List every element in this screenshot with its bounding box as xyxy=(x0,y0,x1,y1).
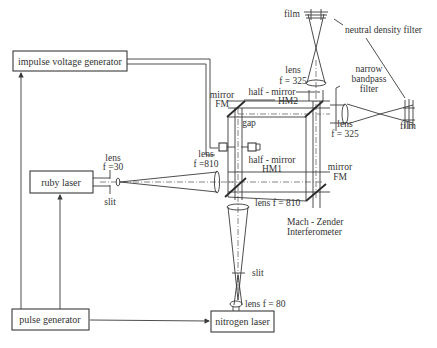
lens-f80-icon xyxy=(230,301,242,307)
lens-f810-bottom-label: lens f = 810 xyxy=(255,198,300,208)
mirror-fm-top-label-2: FM xyxy=(215,99,229,109)
slit-nitrogen-label: slit xyxy=(252,268,264,278)
impulse-voltage-generator-label: impulse voltage generator xyxy=(18,56,123,67)
half-mirror-hm2-label-2: HM2 xyxy=(278,96,298,106)
gap-electrode-right xyxy=(248,143,256,151)
gap-electrode-left xyxy=(219,143,227,151)
ruby-laser-label: ruby laser xyxy=(41,177,81,188)
pulse-generator-box: pulse generator xyxy=(12,309,89,330)
mach-zender-setup-diagram: impulse voltage generator ruby laser pul… xyxy=(0,0,437,348)
ruby-beam xyxy=(93,170,233,194)
ruby-laser-box: ruby laser xyxy=(30,171,93,193)
narrow-bandpass-label-1: narrow xyxy=(356,64,383,74)
pulse-generator-label: pulse generator xyxy=(19,314,81,325)
lens-right-label-1: lens xyxy=(337,119,353,129)
neutral-density-filter-label: neutral density filter xyxy=(345,25,423,35)
interferometer-label-1: Mach - Zender xyxy=(287,217,344,227)
lens-right-label-2: f = 325 xyxy=(331,129,359,139)
lens-top-label-2: f = 325 xyxy=(279,76,307,86)
nitrogen-laser-box: nitrogen laser xyxy=(211,311,274,332)
impulse-voltage-generator-box: impulse voltage generator xyxy=(13,51,127,71)
lens-f80-label: lens f = 80 xyxy=(245,299,286,309)
lens-f810-left-label-2: f =810 xyxy=(193,159,218,169)
lens-top-label-1: lens xyxy=(285,65,301,75)
mirror-fm-bottom-label-1: mirror xyxy=(328,162,353,172)
narrow-bandpass-label-3: filter xyxy=(360,84,379,94)
film-right-label: film xyxy=(400,121,416,131)
slit-ruby-label: slit xyxy=(104,197,116,207)
nitrogen-laser-label: nitrogen laser xyxy=(215,316,270,327)
lens-f810-left-label-1: lens xyxy=(198,149,214,159)
film-top-label: film xyxy=(284,9,300,19)
lens-f30-label-2: f =30 xyxy=(103,162,124,172)
half-mirror-hm1-label-2: HM1 xyxy=(262,164,282,174)
interferometer-label-2: Interferometer xyxy=(287,227,343,237)
narrow-bandpass-label-2: bandpass xyxy=(352,74,387,84)
mirror-fm-bottom-label-2: FM xyxy=(333,172,347,182)
labels: film neutral density filter lens f = 325… xyxy=(103,9,423,309)
gap-label: gap xyxy=(242,118,256,128)
